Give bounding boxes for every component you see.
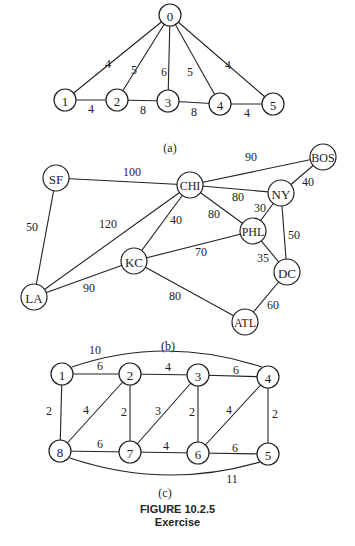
edge-weight: 4 — [105, 57, 111, 71]
graph_a-edge-0-5 — [170, 15, 273, 104]
graph_b-node-CHI: CHI — [177, 172, 203, 198]
edge-weight: 4 — [83, 403, 89, 417]
edge-weight: 4 — [165, 360, 171, 374]
graph_c-node-4: 4 — [257, 366, 279, 388]
graph_b-node-DC: DC — [274, 259, 300, 285]
graph_c-edge-2-8 — [60, 374, 130, 451]
node-label: PHL — [242, 225, 265, 239]
node-label: 3 — [165, 95, 172, 110]
graph_a-edge-0-1 — [65, 15, 170, 100]
graph_b-node-ATL: ATL — [232, 309, 258, 335]
node-label: 1 — [59, 368, 66, 383]
node-label: 6 — [195, 447, 202, 462]
edge-weight: 4 — [244, 106, 250, 120]
graph_b-edge-CHI-LA — [34, 185, 190, 297]
graph_a-node-4: 4 — [209, 93, 231, 115]
graph_c-node-8: 8 — [49, 440, 71, 462]
edge-weight: 4 — [88, 102, 94, 116]
graph_a-edge-0-2 — [117, 15, 170, 100]
graph_b-node-BOS: BOS — [310, 144, 336, 170]
node-label: LA — [25, 291, 43, 306]
graph_c-node-5: 5 — [257, 443, 279, 465]
graph_a-edge-0-3 — [168, 15, 170, 101]
figure-title: FIGURE 10.2.5 — [0, 503, 355, 516]
edge-weight: 30 — [254, 201, 266, 215]
node-label: 1 — [62, 94, 69, 109]
edge-weight: 8 — [140, 103, 146, 117]
caption-b: (b) — [161, 339, 175, 353]
graph_a-node-0: 0 — [159, 4, 181, 26]
node-label: 7 — [127, 446, 134, 461]
edge-weight: 6 — [161, 65, 167, 79]
node-label: BOS — [311, 151, 334, 165]
edge-weight: 6 — [232, 441, 238, 455]
edge-weight: 90 — [245, 150, 257, 164]
graph_b-node-LA: LA — [21, 284, 47, 310]
figure-canvas: 012345SFCHIBOSNYPHLKCDCLAATL12348765 456… — [0, 0, 355, 546]
graph_c-node-2: 2 — [119, 363, 141, 385]
graph_b-edge-SF-LA — [34, 178, 56, 297]
edge-weight: 100 — [123, 165, 141, 179]
edge-weight: 4 — [163, 439, 169, 453]
node-label: 4 — [217, 98, 224, 113]
graph_c-node-3: 3 — [187, 364, 209, 386]
node-label: CHI — [180, 179, 201, 193]
graph_b-node-SF: SF — [43, 165, 69, 191]
graph_b-edge-SF-CHI — [56, 178, 190, 185]
graph_a-node-2: 2 — [106, 89, 128, 111]
caption-a: (a) — [163, 141, 176, 155]
edge-weight: 50 — [288, 228, 300, 242]
edge-weight: 50 — [26, 220, 38, 234]
graph_a-node-1: 1 — [54, 89, 76, 111]
edge-weight: 2 — [46, 404, 52, 418]
node-label: 5 — [270, 98, 277, 113]
edge-weight: 80 — [169, 289, 181, 303]
edge-weight: 4 — [225, 58, 231, 72]
edge-weight: 10 — [89, 343, 101, 357]
edge-weight: 8 — [191, 105, 197, 119]
edge-weight: 80 — [232, 190, 244, 204]
edge-weight: 40 — [302, 175, 314, 189]
edge-weight: 90 — [83, 281, 95, 295]
edge-weight: 70 — [195, 245, 207, 259]
caption-c: (c) — [158, 486, 171, 500]
node-label: 4 — [265, 371, 272, 386]
edge-weight: 11 — [226, 472, 238, 486]
edge-weight: 6 — [97, 359, 103, 373]
node-label: ATL — [234, 316, 256, 330]
edge-weight: 80 — [208, 207, 220, 221]
graph_c-node-6: 6 — [187, 442, 209, 464]
edge-weight: 4 — [226, 403, 232, 417]
graph_a-edge-0-4 — [170, 15, 220, 104]
edge-weight: 2 — [121, 405, 127, 419]
node-label: 2 — [114, 94, 121, 109]
node-label: KC — [125, 255, 143, 270]
node-label: 0 — [167, 9, 174, 24]
node-label: 8 — [57, 445, 64, 460]
graph_a-node-3: 3 — [157, 90, 179, 112]
graph_b-node-PHL: PHL — [240, 218, 266, 244]
edge-weight: 5 — [187, 65, 193, 79]
edges-layer — [34, 15, 323, 475]
edge-weight: 5 — [131, 63, 137, 77]
graph_c-node-1: 1 — [51, 363, 73, 385]
node-label: NY — [272, 187, 291, 202]
edge-weight: 6 — [233, 363, 239, 377]
edge-weight: 2 — [189, 405, 195, 419]
graph_b-edge-KC-ATL — [134, 261, 245, 322]
edge-weight: 2 — [272, 407, 278, 421]
node-label: 2 — [127, 368, 134, 383]
edge-weight: 120 — [99, 217, 117, 231]
node-label: 5 — [265, 448, 272, 463]
graph_c-node-7: 7 — [119, 441, 141, 463]
graph_a-node-5: 5 — [262, 93, 284, 115]
graph_b-node-NY: NY — [268, 180, 294, 206]
edge-weight: 40 — [170, 213, 182, 227]
edge-weight: 60 — [267, 298, 279, 312]
node-label: SF — [49, 172, 63, 187]
node-label: 3 — [195, 369, 202, 384]
figure-subtitle: Exercise — [0, 516, 355, 529]
graph_b-edge-PHL-KC — [134, 231, 253, 261]
graph_b-node-KC: KC — [121, 248, 147, 274]
edge-weight: 3 — [155, 404, 161, 418]
